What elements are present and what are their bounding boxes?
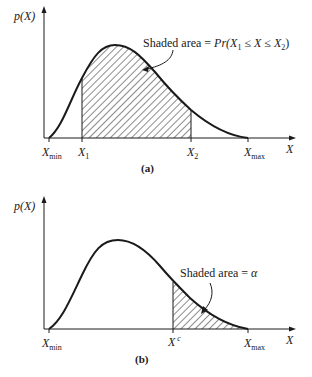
annotation-text: Shaded area = Pr(X1 ≤ X ≤ X2) <box>143 36 289 52</box>
x-axis-label: X <box>285 333 294 347</box>
tick-label-xmax: Xmax <box>243 145 265 161</box>
annotation-leader <box>204 283 212 310</box>
density-curve <box>49 240 248 329</box>
y-axis-arrow-icon <box>42 196 47 203</box>
tick-label-xmax: Xmax <box>243 336 265 352</box>
y-axis-label: p(X) <box>13 199 35 213</box>
tick-label-xmin: Xmin <box>41 145 62 161</box>
annotation-text: Shaded area = α <box>180 266 258 280</box>
y-axis-arrow-icon <box>42 6 47 13</box>
x-axis-label: X <box>285 142 294 156</box>
caption-a: (a) <box>141 162 154 175</box>
panel-a: p(X) X Xmin X1 X2 Xmax Shaded area = Pr(… <box>13 6 296 175</box>
tick-label-xc: Xc <box>167 334 181 349</box>
figure: p(X) X Xmin X1 X2 Xmax Shaded area = Pr(… <box>0 0 312 377</box>
tick-label-xmin: Xmin <box>41 336 62 352</box>
panel-b: p(X) X Xmin Xc Xmax Shaded area = α (b) <box>13 196 296 366</box>
x-axis-arrow-icon <box>289 136 296 141</box>
tick-label-x2: X2 <box>186 145 198 161</box>
y-axis-label: p(X) <box>13 9 35 23</box>
x-axis-arrow-icon <box>289 327 296 332</box>
shaded-region <box>49 45 248 138</box>
caption-b: (b) <box>135 353 149 366</box>
tick-label-x1: X1 <box>77 145 89 161</box>
